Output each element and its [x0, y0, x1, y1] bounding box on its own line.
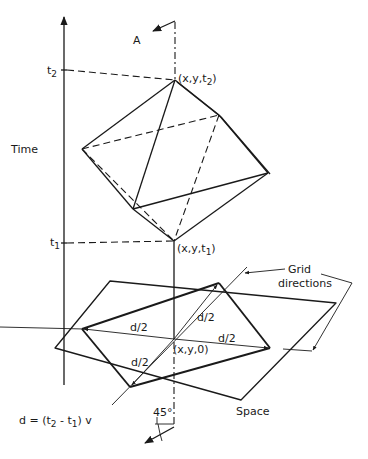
space-time-octahedron-diagram: Time t2 t1 A (x,y,t2) (x,y,t1) Space	[0, 0, 368, 459]
d-half-label-left: d/2	[130, 321, 148, 334]
t2-tick-label: t2	[47, 64, 57, 79]
angle-45-label: 45°	[153, 406, 173, 419]
grid-directions-label-line1: Grid	[288, 263, 311, 276]
view-a-marker	[153, 21, 175, 80]
d-half-label-upper: d/2	[197, 311, 215, 324]
d-half-label-lower: d/2	[131, 356, 149, 369]
time-axis	[61, 17, 67, 385]
t1-projection-line	[67, 241, 174, 243]
d-half-label-right: d/2	[218, 332, 236, 345]
view-a-label: A	[133, 34, 141, 47]
top-vertex-label: (x,y,t2)	[178, 72, 217, 87]
d-half-arrows	[84, 285, 268, 385]
bottom-vertex-label: (x,y,t1)	[177, 242, 216, 257]
t1-tick-label: t1	[50, 236, 60, 251]
t2-projection-line	[67, 70, 175, 80]
origin-label: (x,y,0)	[173, 343, 209, 356]
octahedron	[82, 80, 270, 241]
reachable-diamond	[82, 283, 270, 387]
grid-direction-lines	[0, 267, 312, 405]
space-plane	[55, 281, 336, 400]
grid-directions-label-line2: directions	[278, 277, 332, 290]
time-axis-label: Time	[10, 143, 38, 156]
angle-45-indicator	[145, 417, 174, 443]
distance-formula: d = (t2 - t1) v	[19, 414, 92, 429]
space-plane-label: Space	[236, 405, 270, 418]
